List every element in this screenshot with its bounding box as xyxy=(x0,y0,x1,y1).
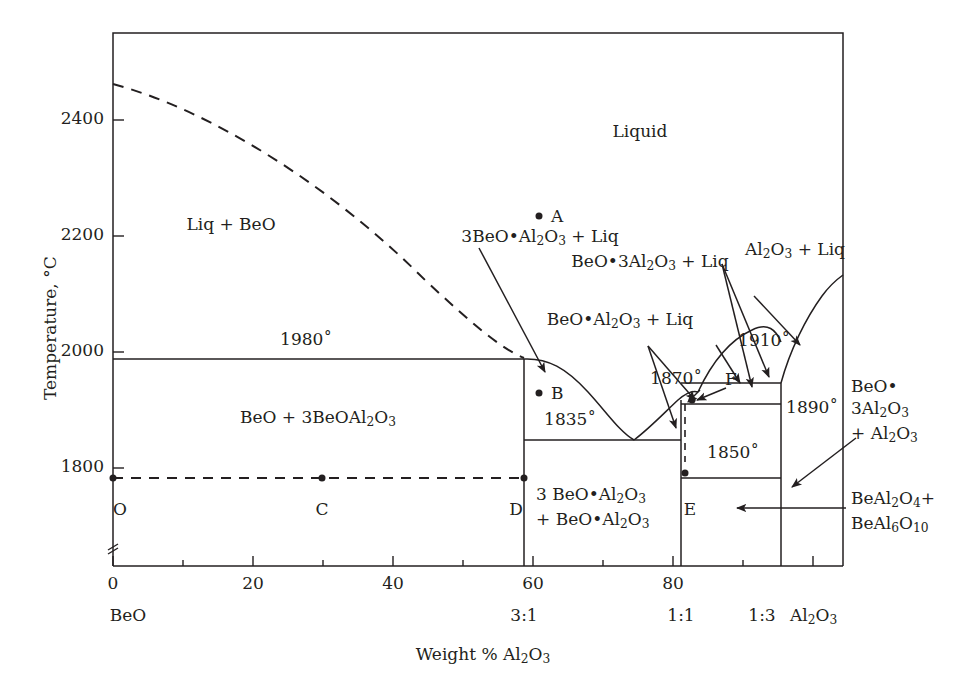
arrow-3beo-al2o3-liq xyxy=(479,248,545,372)
region-label-al2o3-liq: Al2O3 + Liq xyxy=(745,240,845,261)
composition-label-1to3: 1:3 xyxy=(748,606,775,626)
composition-label-alumina: Al2O3 xyxy=(790,606,837,627)
region-label-beo-al2o3-liq: BeO•Al2O3 + Liq xyxy=(547,310,693,331)
point-marker-B xyxy=(536,390,543,397)
x-tick-label-40: 40 xyxy=(382,574,404,594)
region-label-3beo-al2o3-plus-beo-al2o3: 3 BeO•Al2O3 + BeO•Al2O3 xyxy=(536,483,649,532)
composition-label-3to1: 3:1 xyxy=(510,606,537,626)
y-tick-label-1800: 1800 xyxy=(61,457,104,477)
point-label-C: C xyxy=(315,500,328,520)
point-label-D: D xyxy=(509,500,523,520)
right-region-label-bealo-phases: BeAl2O4+ BeAl6O10 xyxy=(851,487,935,536)
right-line-1: BeO• xyxy=(851,375,918,397)
plot-frame xyxy=(113,33,843,566)
y-tick-label-2400: 2400 xyxy=(61,109,104,129)
right-line-4: BeAl2O4+ xyxy=(851,487,935,512)
x-axis-title: Weight % Al2O3 xyxy=(416,645,550,666)
point-marker-C xyxy=(319,475,326,482)
temperature-label-1870: 1870˚ xyxy=(650,369,702,389)
y-axis-title: Temperature, °C xyxy=(40,256,60,400)
point-marker-A xyxy=(536,213,543,220)
temperature-label-1850: 1850˚ xyxy=(707,443,759,463)
point-label-F: F xyxy=(725,370,737,390)
right-line-3: + Al2O3 xyxy=(851,422,918,447)
y-axis-ticks xyxy=(113,120,124,468)
composition-label-1to1: 1:1 xyxy=(667,606,694,626)
x-tick-label-60: 60 xyxy=(522,574,544,594)
phase-diagram-figure: Temperature, °C 2400 2200 2000 1800 0 20… xyxy=(0,0,965,700)
region-label-liq-beo: Liq + BeO xyxy=(186,215,275,235)
point-marker-O xyxy=(110,475,117,482)
temperature-label-1980: 1980˚ xyxy=(280,330,332,350)
region-label-beo-3beoal2o3: BeO + 3BeOAl2O3 xyxy=(240,408,396,429)
region-line-2: + BeO•Al2O3 xyxy=(536,508,649,533)
temperature-label-1835: 1835˚ xyxy=(544,410,596,430)
x-tick-label-80: 80 xyxy=(662,574,684,594)
right-line-5: BeAl6O10 xyxy=(851,512,935,537)
point-label-A: A xyxy=(551,207,563,227)
point-label-B: B xyxy=(551,384,564,404)
region-line-1: 3 BeO•Al2O3 xyxy=(536,483,649,508)
point-marker-D xyxy=(521,475,528,482)
temperature-label-1890: 1890˚ xyxy=(786,398,838,418)
region-label-beo-3al2o3-liq: BeO•3Al2O3 + Liq xyxy=(571,252,728,273)
right-region-label-beo-3al2o3-al2o3: BeO• 3Al2O3 + Al2O3 xyxy=(851,375,918,447)
liquidus-al2o3 xyxy=(781,275,843,383)
y-tick-label-2000: 2000 xyxy=(61,341,104,361)
point-marker-E xyxy=(682,470,689,477)
point-label-E: E xyxy=(684,500,696,520)
y-tick-label-2200: 2200 xyxy=(61,225,104,245)
point-marker-F xyxy=(689,397,696,404)
arrow-right-region xyxy=(792,438,856,487)
x-tick-label-0: 0 xyxy=(108,574,119,594)
right-line-2: 3Al2O3 xyxy=(851,397,918,422)
region-label-3beo-al2o3-liq: 3BeO•Al2O3 + Liq xyxy=(461,227,618,248)
region-label-liquid: Liquid xyxy=(613,122,668,142)
point-label-O: O xyxy=(113,500,127,520)
x-tick-label-20: 20 xyxy=(242,574,264,594)
temperature-label-1910: 1910˚ xyxy=(738,331,790,351)
arrow-F xyxy=(697,388,726,400)
x-axis-ticks xyxy=(113,556,813,566)
beo-liquidus-dashed-curve xyxy=(113,84,524,358)
composition-label-beo: BeO xyxy=(110,606,147,626)
diagram-vector-layer xyxy=(0,0,965,700)
